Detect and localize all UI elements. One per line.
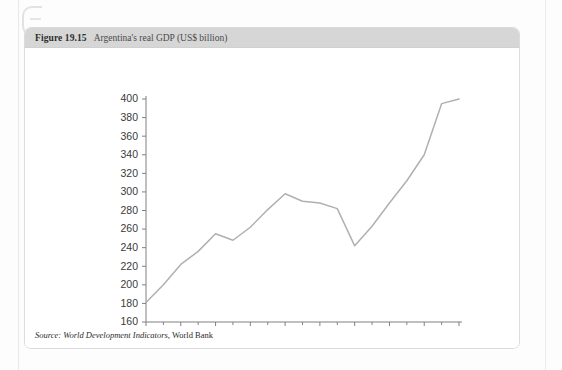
y-axis-tick-labels: 160180200220240260280300320340360380400: [120, 92, 138, 326]
line-chart: 160180200220240260280300320340360380400 …: [25, 48, 520, 326]
figure-header: Figure 19.15 Argentina's real GDP (US$ b…: [25, 28, 519, 48]
source-note: Source: World Development Indicators, Wo…: [35, 330, 213, 340]
page-edge-left: [18, 0, 19, 370]
svg-text:160: 160: [120, 315, 138, 326]
svg-text:400: 400: [120, 92, 138, 104]
svg-text:360: 360: [120, 130, 138, 142]
svg-text:340: 340: [120, 148, 138, 160]
svg-text:180: 180: [120, 297, 138, 309]
chart-svg: 160180200220240260280300320340360380400 …: [25, 48, 520, 326]
svg-text:380: 380: [120, 111, 138, 123]
svg-text:280: 280: [120, 204, 138, 216]
figure-caption: Argentina's real GDP (US$ billion): [94, 33, 228, 43]
svg-text:300: 300: [120, 185, 138, 197]
svg-text:240: 240: [120, 241, 138, 253]
svg-text:260: 260: [120, 222, 138, 234]
svg-text:220: 220: [120, 260, 138, 272]
source-organization: World Bank: [172, 330, 213, 340]
figure-number: Figure 19.15: [35, 33, 87, 43]
page-edge-right: [545, 0, 546, 370]
svg-text:200: 200: [120, 278, 138, 290]
svg-text:320: 320: [120, 167, 138, 179]
figure-card: Figure 19.15 Argentina's real GDP (US$ b…: [24, 27, 520, 349]
gdp-data-line: [146, 99, 459, 302]
y-axis-tick-marks: [142, 99, 146, 322]
source-separator: ,: [168, 330, 170, 340]
page-background: Figure 19.15 Argentina's real GDP (US$ b…: [0, 0, 562, 370]
figure-body: 160180200220240260280300320340360380400 …: [25, 48, 519, 349]
source-label: Source:: [35, 330, 61, 340]
source-publication: World Development Indicators: [63, 330, 168, 340]
